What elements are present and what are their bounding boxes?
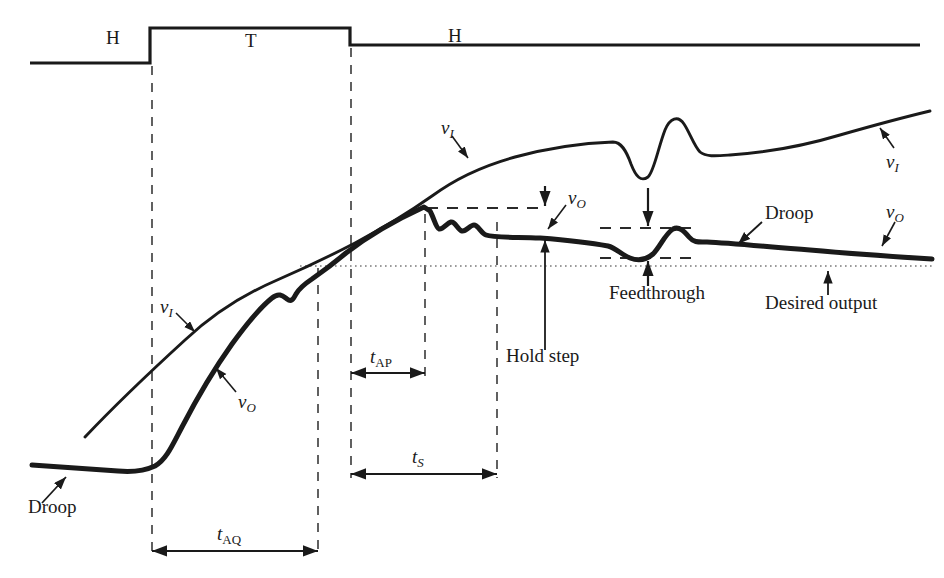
figure-root: H T H vI vO vI vO vI vO Droop Droop Hold… <box>0 0 944 578</box>
timing-label-acquisition: tAQ <box>217 524 241 546</box>
annotation-droop-right: Droop <box>765 203 814 222</box>
curve-label-vo-left: vO <box>238 392 256 414</box>
droop-right-callout <box>738 222 762 244</box>
pulse-label-hold-right: H <box>448 26 462 45</box>
vi-right-subscript: I <box>894 160 898 175</box>
timing-label-aperture: tAP <box>370 347 392 369</box>
annotation-droop-left: Droop <box>28 497 77 516</box>
vo-right-leader <box>882 222 895 246</box>
pulse-label-hold-left: H <box>106 28 120 47</box>
vo-mid-leader <box>548 205 566 229</box>
vi-left-subscript: I <box>168 305 172 320</box>
input-signal-curve <box>85 111 930 437</box>
t-ap-subscript: AP <box>375 355 392 370</box>
waveform-diagram <box>0 0 944 578</box>
timing-label-settling: tS <box>412 447 424 469</box>
vo-left-leader <box>216 368 236 392</box>
vi-right-leader <box>880 128 894 148</box>
pulse-label-track: T <box>245 31 257 50</box>
curve-label-vo-mid: vO <box>568 188 586 210</box>
curve-label-vi-mid: vI <box>441 118 454 140</box>
vi-mid-subscript: I <box>449 126 453 141</box>
control-pulse-trace <box>30 28 920 63</box>
vi-left-leader <box>176 313 195 332</box>
curve-label-vi-left: vI <box>160 297 173 319</box>
annotation-hold-step: Hold step <box>506 346 579 365</box>
t-aq-subscript: AQ <box>222 532 241 547</box>
output-signal-curve <box>32 207 932 471</box>
annotation-desired-output: Desired output <box>765 293 877 312</box>
annotation-feedthrough: Feedthrough <box>609 283 705 302</box>
vi-mid-leader <box>452 136 468 158</box>
vo-right-subscript: O <box>894 210 903 225</box>
curve-label-vo-right: vO <box>886 202 904 224</box>
t-s-subscript: S <box>417 455 424 470</box>
vo-mid-subscript: O <box>576 196 585 211</box>
vo-left-subscript: O <box>246 400 255 415</box>
curve-label-vi-right: vI <box>886 152 899 174</box>
